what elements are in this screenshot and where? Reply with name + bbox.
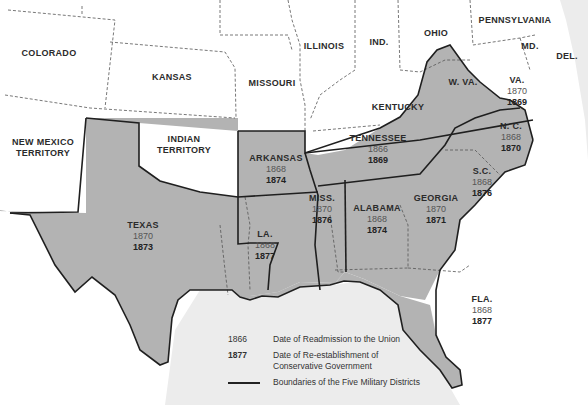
legend-districts-text: Boundaries of the Five Military District… (273, 377, 463, 388)
label-maryland: MD. (521, 41, 538, 52)
label-virginia: VA.18701869 (507, 75, 527, 108)
label-kentucky: KENTUCKY (372, 102, 424, 113)
label-south-carolina: S.C.18681876 (472, 166, 492, 199)
boundary-line-icon (228, 382, 260, 384)
label-indiana: IND. (369, 37, 388, 48)
label-new-mexico: NEW MEXICOTERRITORY (12, 137, 74, 159)
label-alabama: ALABAMA18681874 (353, 203, 401, 236)
label-arkansas: ARKANSAS18681874 (249, 153, 302, 186)
label-indian-territory: INDIANTERRITORY (157, 134, 211, 156)
label-texas: TEXAS18701873 (127, 220, 159, 253)
legend-readmission-text: Date of Readmission to the Union (273, 334, 463, 345)
label-kansas: KANSAS (152, 72, 192, 83)
label-north-carolina: N. C.18681870 (500, 121, 522, 154)
label-florida: FLA.18681877 (471, 294, 492, 327)
legend-conservative-text: Date of Re-establishment of Conservative… (273, 350, 393, 372)
legend: 1866 Date of Readmission to the Union 18… (228, 334, 463, 393)
legend-readmission: 1866 Date of Readmission to the Union (228, 334, 463, 345)
label-ohio: OHIO (424, 28, 448, 39)
legend-readmission-key: 1866 (228, 334, 273, 344)
label-louisiana: LA.18681877 (255, 229, 275, 262)
label-georgia: GEORGIA18701871 (414, 193, 459, 226)
label-illinois: ILLINOIS (304, 41, 344, 52)
legend-districts: Boundaries of the Five Military District… (228, 377, 463, 388)
reconstruction-map: COLORADO KANSAS MISSOURI ILLINOIS IND. O… (0, 0, 588, 405)
label-pennsylvania: PENNSYLVANIA (479, 15, 552, 26)
label-colorado: COLORADO (22, 48, 77, 59)
label-missouri: MISSOURI (249, 78, 296, 89)
label-delaware: DEL. (556, 51, 578, 62)
label-west-virginia: W. VA. (448, 77, 477, 88)
legend-conservative-key: 1877 (228, 350, 273, 360)
legend-conservative: 1877 Date of Re-establishment of Conserv… (228, 350, 463, 372)
label-tennessee: TENNESSEE18661869 (349, 133, 406, 166)
label-mississippi: MISS.18701876 (309, 193, 335, 226)
